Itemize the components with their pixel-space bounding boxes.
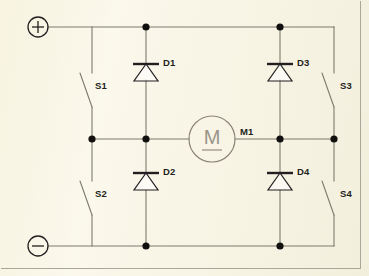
motor-label-M1: M1: [240, 127, 254, 137]
terminal-negative: [28, 236, 48, 256]
switch-S3-blade[interactable]: [322, 73, 334, 107]
switch-label-S4: S4: [340, 189, 352, 199]
junction-dot: [142, 242, 149, 249]
diode-label-D1: D1: [163, 58, 176, 68]
junction-dot: [276, 242, 283, 249]
motor-symbol: M: [189, 116, 235, 162]
switch-S1-blade[interactable]: [80, 73, 92, 107]
diode-label-D3: D3: [297, 58, 310, 68]
junction-dot: [276, 23, 283, 30]
circuit-schematic-svg: M: [0, 0, 369, 276]
switch-S2-blade[interactable]: [80, 181, 92, 215]
switch-S4-blade[interactable]: [322, 181, 334, 215]
terminal-positive: [28, 17, 48, 37]
switch-label-S3: S3: [340, 81, 352, 91]
motor-letter-M: M: [204, 126, 221, 148]
junction-dot: [88, 135, 95, 142]
junction-dot: [142, 23, 149, 30]
diode-label-D2: D2: [163, 167, 176, 177]
diode-D4: [267, 173, 293, 190]
junction-dot: [142, 135, 149, 142]
diode-D2: [133, 173, 159, 190]
diode-label-D4: D4: [297, 167, 310, 177]
switch-label-S2: S2: [95, 189, 107, 199]
junction-dot: [276, 135, 283, 142]
circuit-diagram: M S1 S2 S3 S4 D1 D2 D3 D4 M1: [0, 0, 369, 276]
junction-dot: [330, 135, 337, 142]
diode-D3: [267, 64, 293, 81]
switch-label-S1: S1: [95, 81, 107, 91]
diode-D1: [133, 64, 159, 81]
